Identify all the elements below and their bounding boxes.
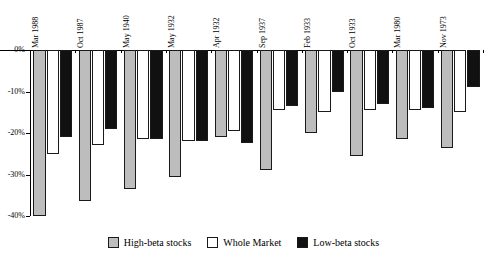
y-axis-tick-label: -30% xyxy=(8,171,25,179)
x-axis-tick-mark xyxy=(211,50,212,53)
bar-high-beta xyxy=(441,50,453,148)
bar-group xyxy=(211,50,256,216)
y-axis-labels: 0%-10%-20%-30%-40% xyxy=(0,0,25,263)
legend-swatch-high-beta xyxy=(108,237,119,248)
x-axis-tick-label: Oct 1987 xyxy=(77,18,85,48)
legend-swatch-low-beta xyxy=(297,237,308,248)
bar-high-beta xyxy=(215,50,227,137)
bar-low-beta xyxy=(60,50,72,137)
bar-whole-market xyxy=(228,50,240,131)
bar-whole-market xyxy=(318,50,330,112)
x-axis-tick-label: May 1932 xyxy=(168,15,176,48)
bar-low-beta xyxy=(196,50,208,141)
y-axis-tick-mark xyxy=(26,175,30,176)
y-axis-tick-label: -20% xyxy=(8,129,25,137)
x-axis-label-holder: Mar 1988 xyxy=(40,4,50,48)
x-axis-label-holder: Nov 1973 xyxy=(448,4,458,48)
bar-group xyxy=(347,50,392,216)
bar-group xyxy=(438,50,483,216)
x-axis-tick-mark xyxy=(302,50,303,53)
bar-whole-market xyxy=(409,50,421,110)
legend-label: Low-beta stocks xyxy=(313,237,379,248)
bar-whole-market xyxy=(273,50,285,110)
bar-whole-market xyxy=(364,50,376,110)
bar-whole-market xyxy=(137,50,149,139)
x-axis-tick-label: Feb 1933 xyxy=(304,18,312,48)
bar-low-beta xyxy=(422,50,434,108)
x-axis-label-holder: Oct 1987 xyxy=(85,4,95,48)
bar-low-beta xyxy=(105,50,117,129)
bar-low-beta xyxy=(286,50,298,106)
x-axis-tick-mark xyxy=(30,50,31,53)
x-axis-label-holder: Mar 1980 xyxy=(402,4,412,48)
x-axis-tick-mark xyxy=(121,50,122,53)
x-axis-tick-mark xyxy=(392,50,393,53)
bar-high-beta xyxy=(350,50,362,156)
legend-item: Low-beta stocks xyxy=(297,237,379,248)
x-axis-label-holder: Oct 1933 xyxy=(357,4,367,48)
bar-high-beta xyxy=(396,50,408,139)
x-axis-tick-mark xyxy=(166,50,167,53)
legend-item: Whole Market xyxy=(207,237,281,248)
bar-whole-market xyxy=(47,50,59,154)
bar-high-beta xyxy=(169,50,181,177)
x-axis-label-holder: May 1932 xyxy=(176,4,186,48)
legend-swatch-whole-market xyxy=(207,237,218,248)
bar-high-beta xyxy=(260,50,272,170)
x-axis-label-holder: Sep 1937 xyxy=(267,4,277,48)
x-axis-tick-label: May 1940 xyxy=(123,15,131,48)
bar-low-beta xyxy=(332,50,344,92)
bar-group xyxy=(121,50,166,216)
x-axis-tick-mark xyxy=(75,50,76,53)
bar-high-beta xyxy=(79,50,91,201)
y-axis-tick-label: -10% xyxy=(8,88,25,96)
x-axis-label-holder: May 1940 xyxy=(131,4,141,48)
x-axis-tick-label: Mar 1980 xyxy=(394,17,402,48)
bar-group xyxy=(392,50,437,216)
bar-whole-market xyxy=(182,50,194,141)
y-axis-tick-mark xyxy=(26,216,30,217)
x-axis-label-holder: Apr 1932 xyxy=(221,4,231,48)
y-axis-tick-label: -40% xyxy=(8,212,25,220)
bar-group xyxy=(257,50,302,216)
x-axis-tick-label: Mar 1988 xyxy=(32,17,40,48)
bar-high-beta xyxy=(33,50,45,216)
x-axis-tick-label: Sep 1937 xyxy=(259,18,267,48)
legend-label: Whole Market xyxy=(223,237,281,248)
bar-chart: 0%-10%-20%-30%-40% Mar 1988Oct 1987May 1… xyxy=(0,0,487,263)
bar-low-beta xyxy=(467,50,479,87)
bar-low-beta xyxy=(377,50,389,104)
chart-legend: High-beta stocksWhole MarketLow-beta sto… xyxy=(0,232,487,252)
bar-high-beta xyxy=(124,50,136,189)
bar-high-beta xyxy=(305,50,317,133)
x-axis-tick-mark xyxy=(438,50,439,53)
bar-group xyxy=(302,50,347,216)
x-axis-tick-label: Nov 1973 xyxy=(440,16,448,48)
x-axis-tick-mark xyxy=(347,50,348,53)
bar-group xyxy=(30,50,75,216)
x-axis-tick-label: Oct 1933 xyxy=(349,18,357,48)
x-axis-tick-label: Apr 1932 xyxy=(213,18,221,48)
plot-area xyxy=(30,50,483,216)
x-axis-tick-mark xyxy=(257,50,258,53)
bar-whole-market xyxy=(454,50,466,112)
x-axis-tick-mark xyxy=(483,50,484,53)
x-axis-label-holder: Feb 1933 xyxy=(312,4,322,48)
bar-low-beta xyxy=(150,50,162,139)
y-axis-tick-mark xyxy=(26,92,30,93)
y-axis-tick-mark xyxy=(26,133,30,134)
bar-group xyxy=(75,50,120,216)
bar-group xyxy=(166,50,211,216)
bar-low-beta xyxy=(241,50,253,143)
legend-item: High-beta stocks xyxy=(108,237,192,248)
legend-label: High-beta stocks xyxy=(124,237,192,248)
bar-whole-market xyxy=(92,50,104,145)
